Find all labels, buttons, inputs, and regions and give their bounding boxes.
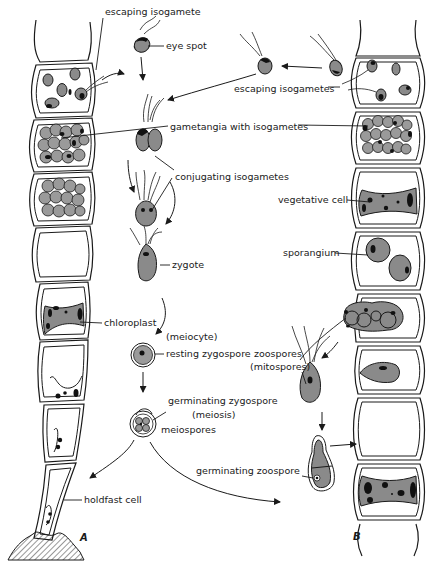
label-holdfast-cell: holdfast cell — [84, 494, 142, 505]
sporangium-cell — [352, 232, 425, 290]
gametangium-cell-escaping — [32, 63, 109, 118]
label-escaping-isogametes: escaping isogametes — [234, 83, 335, 94]
holdfast-cell — [34, 463, 76, 540]
gametangium-cell-packed-1 — [30, 118, 96, 172]
gametangium-cell-b-escaping — [342, 58, 425, 108]
isogamete-cluster — [38, 124, 89, 163]
arrow-free-to-pair — [141, 57, 143, 80]
label-germinating-zoospore: germinating zoospore — [196, 465, 300, 476]
label-resting-zygospore: resting zygospore — [166, 348, 251, 359]
label-meiosis: (meiosis) — [192, 409, 236, 420]
panel-label-a: A — [79, 532, 88, 543]
gametangium-cell-packed-2 — [30, 172, 96, 226]
label-sporangium: sporangium — [283, 247, 340, 258]
resting-zygospore — [131, 343, 155, 367]
ulothrix-life-cycle-diagram: escaping isogamete eye spot escaping iso… — [0, 0, 440, 569]
label-eye-spot: eye spot — [166, 40, 207, 51]
germinating-zygospore — [130, 409, 156, 437]
label-mitospores: (mitospores) — [250, 361, 310, 372]
filament-b — [342, 20, 425, 556]
label-zygote: zygote — [172, 259, 204, 270]
label-vegetative-cell: vegetative cell — [278, 194, 348, 205]
label-zoospores: zoospores — [254, 348, 302, 359]
arrow-conj-to-zygote — [166, 182, 175, 224]
label-germinating-zygospore: germinating zygospore — [168, 395, 278, 406]
arrow-escape-to-free — [102, 73, 124, 80]
empty-cell — [32, 226, 93, 282]
arrow-gamete-to-gamete — [282, 66, 322, 68]
arrow-meiospore-to-filament — [90, 440, 134, 478]
vegetative-cell-b-bottom — [354, 464, 425, 520]
germinating-zoospore — [308, 436, 334, 491]
arrow-germinating-to-filament — [330, 444, 356, 446]
gametangium-cell-b-packed — [352, 112, 425, 164]
label-escaping-isogamete: escaping isogamete — [105, 6, 201, 17]
zoospore-release-cell — [344, 294, 425, 342]
arrow-pair-to-conj — [128, 160, 134, 192]
vegetative-cell-lower — [38, 340, 88, 402]
arrow-release-to-zoospore — [322, 342, 338, 358]
empty-cell-b — [354, 398, 425, 460]
isogamete-pair — [136, 94, 164, 151]
vegetative-cell-bottom — [43, 404, 84, 462]
label-meiocyte: (meiocyte) — [166, 331, 217, 342]
label-chloroplast: chloroplast — [104, 317, 157, 328]
vegetative-cell-chloroplast — [36, 282, 90, 340]
panel-label-b: B — [353, 531, 361, 542]
conjugating-isogametes — [136, 170, 160, 226]
isogamete-free — [132, 16, 160, 55]
label-gametangia-with-isogametes: gametangia with isogametes — [170, 121, 308, 132]
vegetative-cell-b — [352, 168, 425, 228]
arrow-zygote-to-resting — [156, 298, 165, 334]
filament-a — [8, 20, 108, 560]
substrate-rock — [8, 532, 84, 560]
label-meiospores: meiospores — [161, 424, 216, 435]
zoospore-inside-cell — [355, 346, 425, 394]
zygote — [130, 226, 162, 281]
isogamete-free-b — [240, 32, 344, 78]
label-conjugating-isogametes: conjugating isogametes — [175, 171, 289, 182]
